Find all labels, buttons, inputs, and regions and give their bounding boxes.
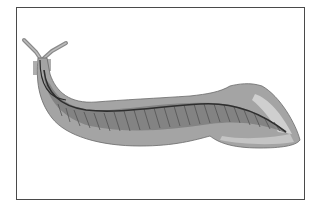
chordate-illustration [0,0,324,216]
tentacles [24,40,66,58]
